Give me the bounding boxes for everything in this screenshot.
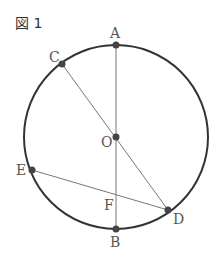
label-d: D xyxy=(173,211,184,227)
label-f: F xyxy=(104,197,114,213)
point-d xyxy=(165,207,172,214)
point-e xyxy=(29,167,36,174)
label-c: C xyxy=(49,49,60,65)
point-b xyxy=(113,226,120,233)
geometry-diagram: A B C D E O F xyxy=(0,0,218,257)
label-e: E xyxy=(16,162,26,178)
label-o: O xyxy=(101,134,112,150)
label-a: A xyxy=(109,25,121,41)
point-o xyxy=(113,134,120,141)
label-b: B xyxy=(110,234,120,250)
point-a xyxy=(113,42,120,49)
